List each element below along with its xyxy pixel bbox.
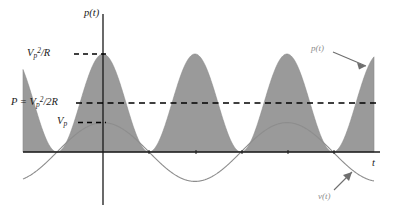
voltage-curve-annotation: v(t) — [318, 192, 331, 201]
annotation-arrow-power — [333, 52, 366, 70]
horizontal-axis-label: t — [372, 158, 375, 169]
vertical-axis-label: p(t) — [84, 8, 99, 19]
figure-container: Vp2/R P = Vp2/2R Vp p(t) t p(t) v(t) — [0, 0, 399, 216]
plot-canvas — [0, 0, 399, 216]
peak-power-label: Vp2/R — [27, 47, 50, 60]
average-power-label: P = Vp2/2R — [11, 96, 58, 109]
peak-voltage-label: Vp — [57, 116, 67, 127]
power-curve-annotation: p(t) — [311, 44, 324, 53]
annotation-arrow-voltage — [334, 172, 352, 190]
